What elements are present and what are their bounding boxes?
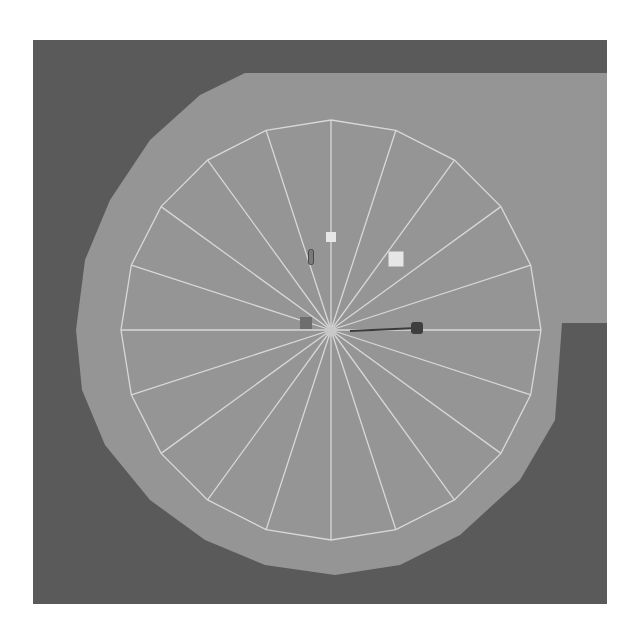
- small-light-marker[interactable]: [326, 232, 336, 242]
- game-viewport[interactable]: [33, 40, 607, 604]
- scene-canvas[interactable]: [33, 40, 607, 604]
- origin-marker[interactable]: [327, 327, 336, 336]
- vertical-capsule[interactable]: [309, 250, 314, 265]
- direction-line-end[interactable]: [411, 322, 423, 334]
- large-light-marker[interactable]: [389, 252, 404, 267]
- dark-square-marker[interactable]: [300, 317, 312, 329]
